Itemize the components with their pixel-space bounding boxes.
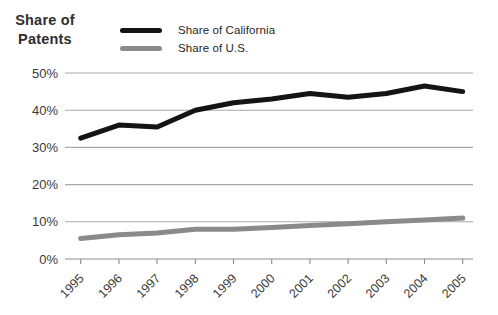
y-tick-label: 40% [32,103,58,118]
x-tick-label: 2005 [439,271,469,301]
us-series-line [81,218,463,238]
patent-share-chart: Share of Patents Share of California Sha… [0,0,498,315]
california-series-line [81,86,463,138]
x-tick-label: 1996 [95,271,125,301]
x-tick-label: 2000 [248,271,278,301]
x-tick-label: 1999 [210,271,240,301]
x-tick-label: 2001 [286,271,316,301]
x-tick-label: 2003 [363,271,393,301]
y-tick-label: 30% [32,140,58,155]
x-tick-label: 1995 [57,271,87,301]
y-tick-label: 20% [32,177,58,192]
y-tick-label: 0% [39,252,58,267]
x-tick-label: 2002 [325,271,355,301]
y-tick-label: 10% [32,214,58,229]
x-tick-label: 1998 [172,271,202,301]
chart-plot: 0%10%20%30%40%50%19951996199719981999200… [0,0,498,315]
x-tick-label: 2004 [401,271,431,301]
y-tick-label: 50% [32,66,58,81]
x-tick-label: 1997 [134,271,164,301]
